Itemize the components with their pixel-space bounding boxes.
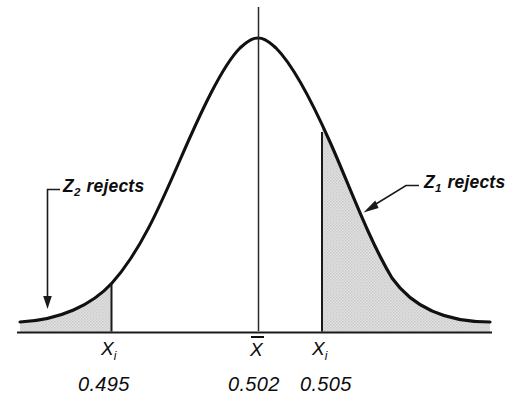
left-rejection-subscript: 2 xyxy=(74,186,84,198)
right-rejection-symbol: Z xyxy=(424,172,435,192)
tick-symbol-lower: Xi xyxy=(101,339,116,358)
tick-symbol-upper-subscript: i xyxy=(325,349,328,363)
overbar-decoration xyxy=(251,336,264,338)
tick-symbol-lower-subscript: i xyxy=(114,349,117,363)
left-leader-line xyxy=(43,190,60,310)
value-label-lower: 0.495 xyxy=(78,374,130,394)
tick-symbol-upper: Xi xyxy=(312,339,327,358)
normal-distribution-figure: Z2rejects Z1rejects Xi X Xi 0.495 0.502 … xyxy=(0,0,508,414)
right-leader-line xyxy=(364,186,420,213)
left-arrowhead xyxy=(43,296,52,309)
right-rejection-subscript: 1 xyxy=(435,182,445,194)
right-rejection-word: rejects xyxy=(445,172,506,192)
right-arrowhead xyxy=(364,201,379,213)
tick-symbol-mean-base: X xyxy=(250,339,263,360)
value-label-mean: 0.502 xyxy=(228,374,280,394)
tick-symbol-upper-base: X xyxy=(312,338,325,359)
left-rejection-symbol: Z xyxy=(63,176,74,196)
tick-symbol-mean: X xyxy=(250,336,264,361)
left-rejection-word: rejects xyxy=(84,176,145,196)
value-label-upper: 0.505 xyxy=(300,374,352,394)
right-rejection-label: Z1rejects xyxy=(424,174,505,192)
left-rejection-label: Z2rejects xyxy=(63,178,144,196)
tick-symbol-lower-base: X xyxy=(101,338,114,359)
